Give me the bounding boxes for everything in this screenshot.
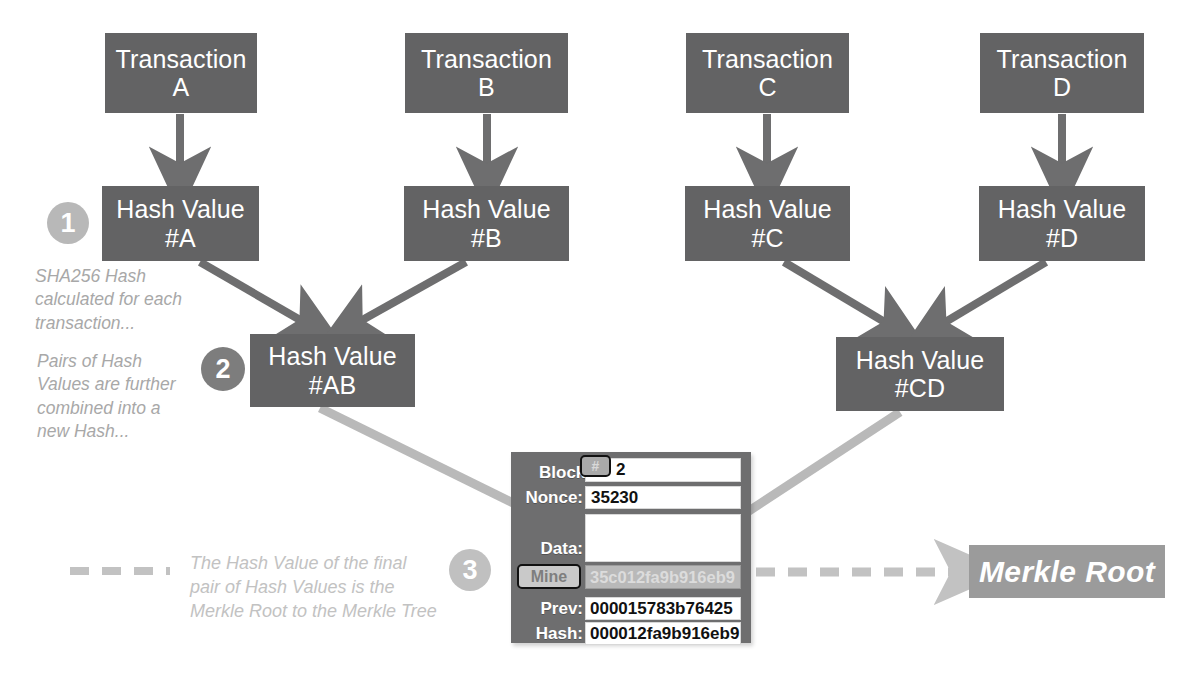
caption-step-1: SHA256 Hash calculated for each transact… xyxy=(35,265,235,335)
diagram-canvas: Transaction A Transaction B Transaction … xyxy=(0,0,1177,690)
block-number-value: 2 xyxy=(616,460,625,480)
nonce-row: Nonce: 35230 xyxy=(511,486,751,510)
block-panel: Block: 2 # Nonce: 35230 Data: Mine xyxy=(511,452,751,643)
node-line2: D xyxy=(1053,73,1071,102)
mined-hash-field[interactable]: 35c012fa9b916eb9 xyxy=(585,565,741,589)
node-line2: #D xyxy=(1046,224,1078,253)
node-line2: C xyxy=(758,73,776,102)
mined-hash-value: 35c012fa9b916eb9 xyxy=(590,568,735,587)
merkle-root-label: Merkle Root xyxy=(969,545,1165,598)
mine-button[interactable]: Mine xyxy=(517,564,581,589)
prev-hash-input[interactable]: 000015783b76425 xyxy=(585,597,741,620)
node-line1: Transaction xyxy=(997,45,1128,74)
mine-button-label: Mine xyxy=(531,568,567,586)
mine-row: Mine 35c012fa9b916eb9 xyxy=(511,564,751,594)
hash-label: Hash: xyxy=(515,624,583,644)
node-line1: Hash Value xyxy=(268,342,396,371)
arrow-hashD-to-hashCD xyxy=(932,262,1046,330)
hash-input[interactable]: 000012fa9b916eb9 xyxy=(585,622,741,645)
node-transaction-a: Transaction A xyxy=(105,33,257,113)
node-line2: #AB xyxy=(309,371,357,400)
node-line2: #CD xyxy=(895,374,945,403)
node-line1: Transaction xyxy=(421,45,552,74)
merkle-root-text: Merkle Root xyxy=(979,555,1155,589)
node-line1: Hash Value xyxy=(998,195,1126,224)
hash-symbol-label: # xyxy=(592,458,600,474)
data-row: Data: xyxy=(511,514,751,564)
node-line2: A xyxy=(173,73,190,102)
node-transaction-c: Transaction C xyxy=(686,33,849,113)
node-line1: Transaction xyxy=(702,45,833,74)
node-line2: #B xyxy=(471,224,502,253)
node-transaction-b: Transaction B xyxy=(405,33,568,113)
node-hash-d: Hash Value #D xyxy=(979,186,1145,261)
nonce-input[interactable]: 35230 xyxy=(585,486,741,509)
hash-symbol-button[interactable]: # xyxy=(580,455,611,477)
step-number: 2 xyxy=(215,354,230,385)
node-line2: #C xyxy=(751,224,783,253)
data-label: Data: xyxy=(515,539,583,559)
node-hash-ab: Hash Value #AB xyxy=(250,334,415,407)
node-line2: #A xyxy=(165,224,196,253)
step-marker-1: 1 xyxy=(47,202,89,244)
caption-step-2: Pairs of Hash Values are further combine… xyxy=(37,350,212,444)
prev-label: Prev: xyxy=(515,599,583,619)
node-line1: Hash Value xyxy=(703,195,831,224)
node-hash-b: Hash Value #B xyxy=(404,186,569,261)
hash-row: Hash: 000012fa9b916eb9 xyxy=(511,622,751,646)
node-hash-c: Hash Value #C xyxy=(685,186,850,261)
nonce-value: 35230 xyxy=(591,488,638,508)
node-line1: Hash Value xyxy=(856,346,984,375)
block-row: Block: 2 # xyxy=(511,460,751,486)
node-line1: Hash Value xyxy=(116,195,244,224)
prev-hash-value: 000015783b76425 xyxy=(590,599,733,619)
arrow-hashB-to-hashAB xyxy=(348,262,466,328)
node-hash-a: Hash Value #A xyxy=(102,186,259,261)
node-transaction-d: Transaction D xyxy=(980,33,1144,113)
node-line2: B xyxy=(478,73,495,102)
node-hash-cd: Hash Value #CD xyxy=(836,337,1004,411)
arrow-hashC-to-hashCD xyxy=(784,262,898,330)
data-textarea[interactable] xyxy=(585,514,741,562)
hash-value: 000012fa9b916eb9 xyxy=(590,624,739,644)
nonce-label: Nonce: xyxy=(515,488,583,508)
node-line1: Transaction xyxy=(116,45,247,74)
step-number: 1 xyxy=(60,208,75,239)
caption-step-3: The Hash Value of the final pair of Hash… xyxy=(190,551,465,623)
prev-row: Prev: 000015783b76425 xyxy=(511,597,751,621)
node-line1: Hash Value xyxy=(422,195,550,224)
